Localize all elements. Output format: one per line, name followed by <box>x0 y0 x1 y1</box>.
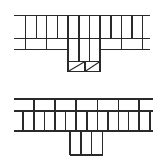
break-diagonal-line <box>68 62 85 72</box>
stair-plan-drawing <box>0 0 165 164</box>
bottom-stair-plan <box>14 99 153 155</box>
diagram-canvas <box>0 0 165 164</box>
landing-rect <box>68 62 100 72</box>
break-diagonal-line <box>85 62 100 72</box>
top-stair-plan <box>14 16 150 72</box>
